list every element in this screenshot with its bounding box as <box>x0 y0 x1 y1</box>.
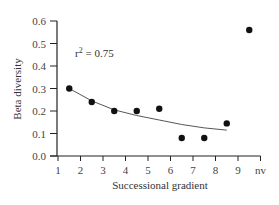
x-tick-label: 4 <box>123 164 129 176</box>
x-tick-label: 7 <box>190 164 196 176</box>
data-point <box>134 108 140 114</box>
y-tick-label: 0.0 <box>32 150 46 162</box>
x-tick-label: 3 <box>100 164 106 176</box>
y-tick-label: 0.2 <box>32 105 46 117</box>
data-point <box>246 27 252 33</box>
data-points <box>66 27 252 141</box>
x-axis-title: Successional gradient <box>112 179 208 191</box>
y-tick-label: 0.1 <box>32 128 46 140</box>
data-point <box>66 85 72 91</box>
data-point <box>111 108 117 114</box>
y-tick-label: 0.5 <box>32 38 46 50</box>
ticks: 0.00.10.20.30.40.50.6123456789nv <box>32 15 266 176</box>
x-tick-label: 8 <box>213 164 219 176</box>
data-point <box>224 120 230 126</box>
data-point <box>179 135 185 141</box>
y-tick-label: 0.4 <box>32 60 46 72</box>
y-axis-title: Beta diversity <box>11 58 23 120</box>
x-tick-label: 2 <box>78 164 84 176</box>
trend-line <box>69 89 227 131</box>
data-point <box>89 99 95 105</box>
x-tick-label: 6 <box>168 164 174 176</box>
y-tick-label: 0.6 <box>32 15 46 27</box>
data-point <box>201 135 207 141</box>
x-tick-label: 9 <box>235 164 241 176</box>
axes <box>50 21 261 156</box>
x-tick-label: 1 <box>55 164 61 176</box>
x-tick-label: 5 <box>145 164 151 176</box>
scatter-chart: 0.00.10.20.30.40.50.6123456789nv r2 = 0.… <box>0 0 279 205</box>
y-tick-label: 0.3 <box>32 83 46 95</box>
data-point <box>156 106 162 112</box>
r-squared-annotation: r2 = 0.75 <box>75 46 114 59</box>
x-tick-label: nv <box>255 164 267 176</box>
